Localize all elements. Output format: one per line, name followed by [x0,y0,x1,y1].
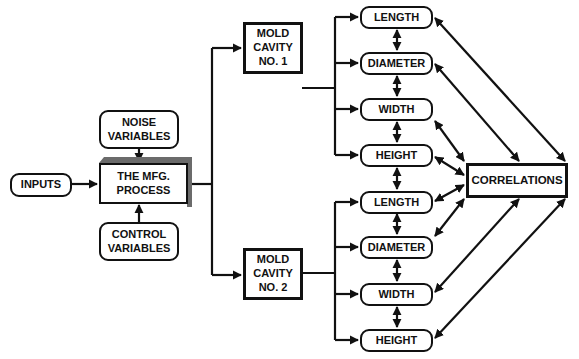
cavity2-length-label: LENGTH [374,196,419,210]
cavity1-width-node: WIDTH [360,98,433,121]
cavity2-diameter-node: DIAMETER [360,236,433,259]
cavity2-line3: NO. 2 [259,281,288,295]
control-variables-node: CONTROL VARIABLES [99,222,179,261]
cavity1-diameter-label: DIAMETER [368,57,425,71]
cavity2-height-label: HEIGHT [376,334,418,348]
cavity2-length-node: LENGTH [360,191,433,214]
cavity1-height-label: HEIGHT [376,149,418,163]
noise-variables-node: NOISE VARIABLES [99,110,179,149]
cavity1-width-label: WIDTH [378,103,414,117]
process-label-line1: THE MFG. [117,170,170,184]
cavity2-line1: MOLD [257,253,289,267]
control-label-line1: CONTROL [112,228,166,242]
cavity2-line2: CAVITY [253,267,293,281]
cavity2-height-node: HEIGHT [360,329,433,352]
mold-cavity-2-node: MOLD CAVITY NO. 2 [243,248,303,300]
cavity1-length-node: LENGTH [360,6,433,29]
cavity2-width-label: WIDTH [378,288,414,302]
noise-label-line1: NOISE [122,116,156,130]
correlations-node: CORRELATIONS [466,163,568,198]
process-label-line2: PROCESS [117,184,171,198]
control-label-line2: VARIABLES [108,242,171,256]
cavity1-length-label: LENGTH [374,11,419,25]
cavity1-diameter-node: DIAMETER [360,52,433,75]
correlations-label: CORRELATIONS [471,173,562,187]
cavity1-height-node: HEIGHT [360,144,433,167]
noise-label-line2: VARIABLES [108,130,171,144]
cavity1-line3: NO. 1 [259,55,288,69]
cavity1-line1: MOLD [257,27,289,41]
cavity2-diameter-label: DIAMETER [368,241,425,255]
mfg-process-node: THE MFG. PROCESS [99,163,188,204]
mold-cavity-1-node: MOLD CAVITY NO. 1 [243,22,303,74]
cavity2-width-node: WIDTH [360,283,433,306]
cavity1-line2: CAVITY [253,41,293,55]
inputs-node: INPUTS [10,173,72,197]
inputs-label: INPUTS [21,178,61,192]
